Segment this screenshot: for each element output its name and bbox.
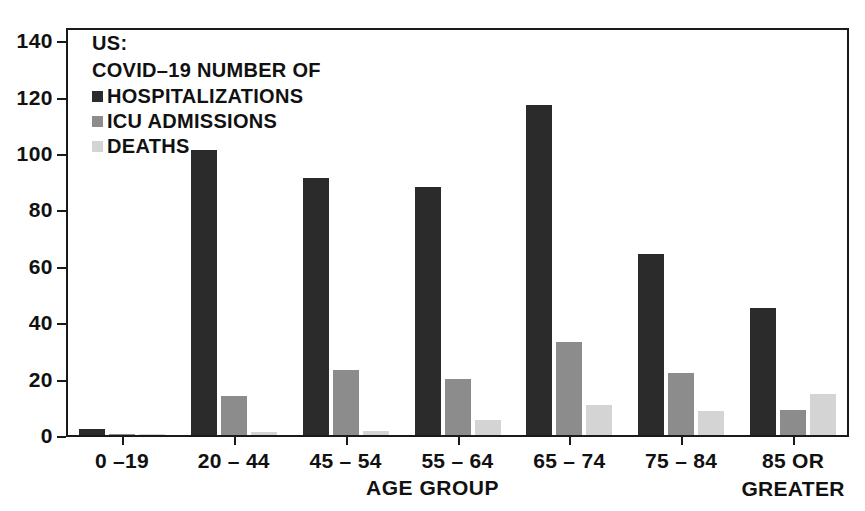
y-tick-mark <box>57 436 66 438</box>
x-tick-mark <box>681 437 683 445</box>
y-tick-label: 140 <box>16 29 53 53</box>
y-tick-label: 20 <box>29 368 53 392</box>
legend-entry: DEATHS <box>92 134 432 159</box>
x-tick-label: 20 – 44 <box>178 447 290 475</box>
y-tick-mark <box>57 210 66 212</box>
bar <box>668 373 694 435</box>
bar <box>556 342 582 435</box>
y-tick-label: 120 <box>16 86 53 110</box>
bar <box>363 431 389 435</box>
x-axis-title: AGE GROUP <box>0 476 865 500</box>
bar <box>79 429 105 435</box>
x-tick-mark <box>458 437 460 445</box>
covid-age-group-bar-chart: 020406080100120140 0 –1920 – 4445 – 5455… <box>0 0 865 511</box>
legend-entry: ICU ADMISSIONS <box>92 109 432 134</box>
x-tick-label: 65 – 74 <box>513 447 625 475</box>
legend-entry: HOSPITALIZATIONS <box>92 84 432 109</box>
bar <box>526 105 552 435</box>
x-tick-mark <box>569 437 571 445</box>
bar <box>415 187 441 435</box>
x-tick-mark <box>234 437 236 445</box>
bar <box>139 434 165 436</box>
y-tick-label: 100 <box>16 142 53 166</box>
bar <box>698 411 724 435</box>
x-tick-mark <box>346 437 348 445</box>
bar <box>475 420 501 436</box>
y-tick-mark <box>57 98 66 100</box>
bar <box>333 370 359 435</box>
bar <box>191 150 217 435</box>
legend-heading-line-1: US: <box>92 30 432 57</box>
bar <box>251 432 277 435</box>
bar <box>445 379 471 435</box>
chart-legend: US: COVID–19 NUMBER OF HOSPITALIZATIONSI… <box>92 30 432 159</box>
y-tick-label: 40 <box>29 311 53 335</box>
legend-swatch-icon <box>92 116 103 127</box>
legend-entries: HOSPITALIZATIONSICU ADMISSIONSDEATHS <box>92 84 432 159</box>
x-tick-label: 45 – 54 <box>290 447 402 475</box>
legend-swatch-icon <box>92 141 103 152</box>
x-tick-mark <box>122 437 124 445</box>
x-tick-label: 0 –19 <box>66 447 178 475</box>
y-tick-label: 0 <box>41 424 53 448</box>
bar <box>810 394 836 435</box>
bar <box>638 254 664 435</box>
x-tick-label: 55 – 64 <box>402 447 514 475</box>
legend-swatch-icon <box>92 91 103 102</box>
x-tick-mark <box>793 437 795 445</box>
legend-label: HOSPITALIZATIONS <box>107 84 303 109</box>
y-tick-label: 80 <box>29 198 53 222</box>
bar <box>780 410 806 435</box>
y-tick-label: 60 <box>29 255 53 279</box>
legend-label: ICU ADMISSIONS <box>107 109 277 134</box>
y-tick-mark <box>57 41 66 43</box>
bar <box>303 178 329 435</box>
bar <box>221 396 247 435</box>
y-tick-mark <box>57 154 66 156</box>
y-tick-mark <box>57 380 66 382</box>
bar <box>109 434 135 436</box>
y-tick-mark <box>57 323 66 325</box>
legend-heading-line-2: COVID–19 NUMBER OF <box>92 57 432 84</box>
bar <box>750 308 776 435</box>
legend-label: DEATHS <box>107 134 190 159</box>
y-tick-mark <box>57 267 66 269</box>
x-tick-label: 75 – 84 <box>625 447 737 475</box>
bar <box>586 405 612 435</box>
